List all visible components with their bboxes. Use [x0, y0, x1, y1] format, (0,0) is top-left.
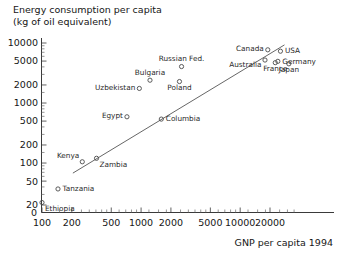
plot-area: 205010020050010002000500010000 100200500… [0, 0, 340, 256]
y-tick-label-10000: 10000 [8, 37, 38, 48]
y-tick-label-1000: 1000 [14, 97, 38, 108]
data-point-label-poland: Poland [167, 83, 191, 92]
data-point-bulgaria [148, 78, 152, 82]
data-point-markers [40, 48, 291, 205]
y-axis-origin-label: 0 [31, 207, 37, 218]
data-point-label-japan: Japan [278, 65, 299, 74]
data-point-russian-fed [179, 64, 183, 68]
data-point-label-uzbekistan: Uzbekistan [95, 83, 135, 92]
x-axis-title: GNP per capita 1994 [235, 237, 333, 248]
x-tick-label-10000: 10000 [225, 217, 255, 228]
data-point-label-egypt: Egypt [102, 111, 123, 120]
data-point-label-kenya: Kenya [57, 151, 79, 160]
data-point-label-bulgaria: Bulgaria [135, 68, 165, 77]
data-point-label-columbia: Columbia [166, 114, 200, 123]
data-point-label-germany: Germany [282, 57, 316, 66]
y-tick-label-5000: 5000 [14, 55, 38, 66]
data-point-uzbekistan [137, 86, 141, 90]
x-tick-label-500: 500 [102, 217, 120, 228]
energy-vs-gnp-scatter-chart: Energy consumption per capita (kg of oil… [0, 0, 340, 256]
x-tick-label-20000: 20000 [255, 217, 285, 228]
x-tick-label-2000: 2000 [159, 217, 183, 228]
y-tick-label-500: 500 [20, 115, 38, 126]
data-point-label-ethiopia: Ethiopia [45, 204, 75, 213]
x-tick-label-100: 100 [33, 217, 51, 228]
y-axis-tick-labels: 205010020050010002000500010000 [8, 37, 38, 210]
data-point-label-australia: Australia [229, 60, 261, 69]
x-tick-label-200: 200 [63, 217, 81, 228]
data-point-australia [263, 58, 267, 62]
y-axis-ticks [42, 43, 47, 205]
data-point-usa [278, 49, 282, 53]
y-tick-label-100: 100 [20, 157, 38, 168]
data-point-label-usa: USA [285, 46, 300, 55]
data-point-labels: EthiopiaTanzaniaKenyaZambiaEgyptColumbia… [45, 44, 317, 213]
x-axis-ticks [42, 208, 294, 213]
y-tick-label-50: 50 [26, 176, 38, 187]
x-tick-label-1000: 1000 [129, 217, 153, 228]
data-point-canada [266, 48, 270, 52]
y-tick-label-2000: 2000 [14, 79, 38, 90]
x-axis-tick-labels: 1002005001000200050001000020000 [33, 217, 285, 228]
data-point-label-tanzania: Tanzania [61, 184, 94, 193]
y-tick-label-200: 200 [20, 139, 38, 150]
data-point-kenya [80, 160, 84, 164]
x-tick-label-5000: 5000 [198, 217, 222, 228]
data-point-label-canada: Canada [236, 44, 264, 53]
data-point-label-zambia: Zambia [100, 160, 128, 169]
data-point-label-russian-fed: Russian Fed. [159, 54, 205, 63]
data-point-egypt [125, 115, 129, 119]
data-point-tanzania [56, 187, 60, 191]
